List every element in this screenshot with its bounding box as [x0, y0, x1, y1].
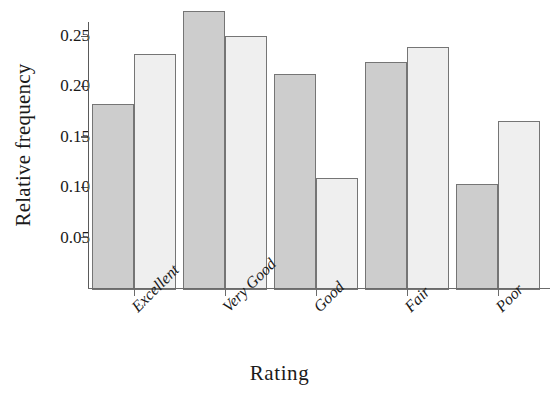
y-tick-label: 0.25: [36, 27, 90, 44]
y-tick-label-wrap: 0.25: [0, 27, 90, 44]
bar[interactable]: [498, 121, 540, 290]
bar[interactable]: [92, 104, 134, 290]
y-tick-label-wrap: 0.20: [0, 77, 90, 94]
bar[interactable]: [365, 62, 407, 290]
y-tick-label-wrap: 0.15: [0, 128, 90, 145]
bar[interactable]: [456, 184, 498, 290]
bar[interactable]: [225, 36, 267, 290]
bar-group: [274, 2, 358, 290]
y-tick-label-wrap: 0.05: [0, 229, 90, 246]
bar[interactable]: [316, 178, 358, 290]
bar[interactable]: [274, 74, 316, 290]
bar[interactable]: [134, 54, 176, 290]
bar-group: [92, 2, 176, 290]
y-tick-label: 0.15: [36, 128, 90, 145]
x-axis-title: Rating: [0, 361, 559, 386]
plot-area: [88, 0, 559, 290]
chart-figure: Relative frequency 0.050.100.150.200.25 …: [0, 0, 559, 397]
y-tick-label: 0.05: [36, 229, 90, 246]
y-tick-label-wrap: 0.10: [0, 178, 90, 195]
y-tick-label: 0.20: [36, 77, 90, 94]
bar[interactable]: [183, 11, 225, 290]
bar-group: [365, 2, 449, 290]
bar-group: [456, 2, 540, 290]
bar-group: [183, 2, 267, 290]
bar[interactable]: [407, 47, 449, 290]
y-tick-label: 0.10: [36, 178, 90, 195]
